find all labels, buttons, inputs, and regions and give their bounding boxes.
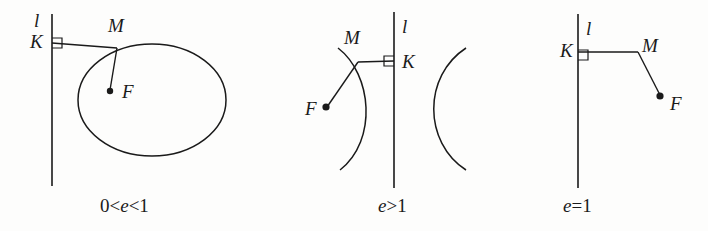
foot-label-k: K (30, 32, 43, 51)
parabola-diagram-svg (490, 0, 708, 231)
caption-suffix: >1 (386, 195, 406, 216)
segment-mf (110, 48, 117, 90)
foot-label-k: K (560, 41, 573, 60)
focus-point-dot (322, 103, 329, 110)
panel-parabola: l K M F e=1 (490, 0, 708, 231)
foot-label-k: K (402, 52, 415, 71)
segment-mf (638, 52, 660, 95)
caption-ellipse: 0<e<1 (100, 196, 149, 215)
conic-sections-figure: l K M F 0<e<1 l K M F e> (0, 0, 708, 231)
caption-suffix: <1 (129, 195, 149, 216)
point-label-m: M (642, 36, 658, 55)
panel-hyperbola: l K M F e>1 (260, 0, 490, 231)
hyperbola-left-branch (338, 48, 366, 170)
directrix-label-l: l (586, 19, 591, 38)
caption-suffix: =1 (571, 195, 591, 216)
directrix-label-l: l (402, 17, 407, 36)
caption-hyperbola: e>1 (378, 196, 407, 215)
caption-parabola: e=1 (563, 196, 592, 215)
directrix-label-l: l (34, 11, 39, 30)
ellipse-curve (78, 44, 226, 156)
focus-point-dot (107, 88, 113, 94)
point-label-m: M (108, 16, 124, 35)
focus-label-f: F (122, 82, 134, 101)
hyperbola-diagram-svg (260, 0, 490, 231)
segment-mf (327, 62, 358, 107)
segment-km (358, 61, 394, 62)
point-label-m: M (344, 28, 360, 47)
panel-ellipse: l K M F 0<e<1 (0, 0, 260, 231)
focus-point-dot (656, 92, 663, 99)
caption-variable: e (120, 195, 128, 216)
focus-label-f: F (305, 99, 317, 118)
hyperbola-right-branch (434, 48, 466, 170)
focus-label-f: F (670, 94, 682, 113)
caption-prefix: 0< (100, 195, 120, 216)
